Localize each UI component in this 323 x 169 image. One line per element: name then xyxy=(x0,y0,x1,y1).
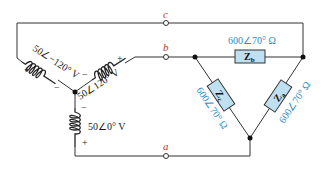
node-label-c: c xyxy=(163,8,168,20)
wire-b xyxy=(125,57,303,63)
source-c-minus: − xyxy=(54,82,60,93)
junction-load-b-right xyxy=(301,55,306,60)
wire-source-c-neutral xyxy=(58,80,75,92)
source-c-label: 50∠−120° V xyxy=(31,42,82,81)
zb-value: 600∠70° Ω xyxy=(228,35,276,46)
junction-load-b-left xyxy=(193,55,198,60)
circuit-diagram: c b a 50∠−120° V 50∠120° V 50∠0° V + − +… xyxy=(0,0,323,169)
terminal-c[interactable] xyxy=(164,21,169,26)
source-a-minus: − xyxy=(81,102,87,113)
junction-load-neutral xyxy=(248,136,253,141)
node-label-a: a xyxy=(163,140,169,152)
terminal-a[interactable] xyxy=(164,154,169,159)
source-a-label: 50∠0° V xyxy=(88,121,126,132)
coil-icon-source-a xyxy=(70,108,81,147)
source-c-plus: + xyxy=(24,64,30,75)
circuit-svg: c b a 50∠−120° V 50∠120° V 50∠0° V + − +… xyxy=(0,0,323,169)
source-b-minus: − xyxy=(82,69,88,80)
source-a-plus: + xyxy=(82,137,88,148)
node-label-b: b xyxy=(163,41,169,53)
terminal-b[interactable] xyxy=(164,55,169,60)
source-b-plus: + xyxy=(117,53,123,64)
